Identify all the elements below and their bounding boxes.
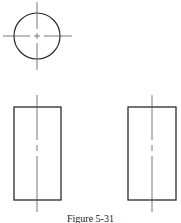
top-view-circle (3, 2, 72, 70)
figure-caption: Figure 5-31 (0, 213, 181, 223)
center-cross (3, 2, 72, 70)
technical-drawing (0, 0, 181, 223)
side-view-rectangle (128, 95, 176, 212)
front-view-rectangle (14, 95, 61, 212)
rectangle-outline (14, 107, 61, 200)
